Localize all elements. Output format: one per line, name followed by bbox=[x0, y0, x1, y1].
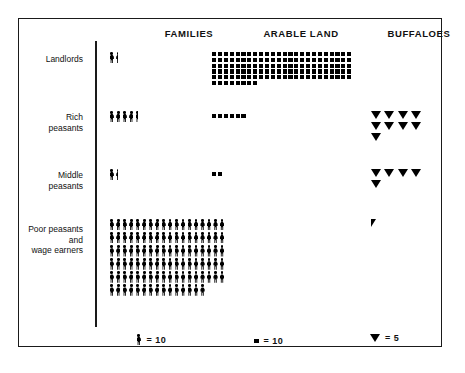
person-icon bbox=[135, 271, 141, 283]
square-icon bbox=[253, 75, 257, 79]
square-icon bbox=[224, 81, 228, 85]
person-icon bbox=[161, 284, 167, 296]
column-header-arable-land: ARABLE LAND bbox=[263, 28, 338, 39]
person-icon bbox=[128, 111, 134, 123]
square-icon bbox=[271, 58, 275, 62]
pictogram-buffaloes-middle-peasants bbox=[371, 169, 437, 191]
triangle-icon bbox=[411, 122, 421, 130]
square-icon bbox=[294, 52, 298, 56]
person-icon bbox=[219, 245, 225, 257]
square-icon bbox=[318, 58, 322, 62]
triangle-icon bbox=[398, 169, 408, 177]
person-icon bbox=[200, 284, 206, 296]
person-icon bbox=[206, 258, 212, 270]
person-icon bbox=[122, 111, 128, 123]
person-icon bbox=[115, 284, 121, 296]
square-icon bbox=[224, 52, 228, 56]
person-icon bbox=[200, 232, 206, 244]
pictogram-buffaloes-rich-peasants bbox=[371, 111, 437, 144]
square-icon bbox=[259, 52, 263, 56]
square-icon bbox=[335, 58, 339, 62]
row-label-poor-peasants: Poor peasants and wage earners bbox=[0, 224, 83, 256]
person-icon bbox=[109, 271, 115, 283]
person-icon bbox=[161, 219, 167, 231]
person-icon bbox=[109, 111, 115, 123]
person-icon bbox=[122, 271, 128, 283]
triangle-icon bbox=[371, 180, 381, 188]
person-icon bbox=[193, 258, 199, 270]
person-icon bbox=[115, 169, 118, 181]
square-icon bbox=[271, 75, 275, 79]
person-icon bbox=[115, 219, 121, 231]
pictogram-arable-rich-peasants bbox=[212, 114, 355, 120]
person-icon bbox=[193, 232, 199, 244]
person-icon bbox=[180, 258, 186, 270]
person-icon bbox=[141, 284, 147, 296]
legend-families: = 10 bbox=[136, 334, 166, 346]
person-icon bbox=[122, 232, 128, 244]
square-icon bbox=[300, 75, 304, 79]
square-icon bbox=[277, 64, 281, 68]
triangle-icon bbox=[371, 111, 381, 119]
square-icon bbox=[241, 64, 245, 68]
square-icon bbox=[224, 58, 228, 62]
person-icon bbox=[213, 245, 219, 257]
person-icon bbox=[109, 169, 115, 181]
square-icon bbox=[247, 58, 251, 62]
person-icon bbox=[206, 245, 212, 257]
square-icon bbox=[218, 75, 222, 79]
person-icon bbox=[128, 219, 134, 231]
person-icon bbox=[180, 271, 186, 283]
person-icon bbox=[219, 271, 225, 283]
person-icon bbox=[128, 258, 134, 270]
label-divider bbox=[95, 41, 97, 327]
square-icon bbox=[324, 64, 328, 68]
person-icon bbox=[187, 258, 193, 270]
triangle-icon bbox=[371, 219, 376, 227]
square-icon bbox=[253, 52, 257, 56]
square-icon bbox=[324, 58, 328, 62]
triangle-icon bbox=[411, 169, 421, 177]
square-icon bbox=[247, 64, 251, 68]
square-icon bbox=[247, 81, 251, 85]
square-icon bbox=[212, 172, 216, 176]
column-header-families: FAMILIES bbox=[165, 28, 214, 39]
person-icon bbox=[128, 232, 134, 244]
square-icon bbox=[254, 339, 259, 344]
person-icon bbox=[161, 258, 167, 270]
pictogram-families-middle-peasants bbox=[109, 169, 205, 182]
square-icon bbox=[294, 75, 298, 79]
square-icon bbox=[218, 114, 222, 118]
square-icon bbox=[265, 69, 269, 73]
square-icon bbox=[271, 69, 275, 73]
person-icon bbox=[109, 258, 115, 270]
square-icon bbox=[218, 172, 222, 176]
legend-arable-land: = 10 bbox=[254, 336, 283, 346]
square-icon bbox=[306, 52, 310, 56]
person-icon bbox=[154, 245, 160, 257]
person-icon bbox=[141, 219, 147, 231]
person-icon bbox=[135, 245, 141, 257]
square-icon bbox=[277, 69, 281, 73]
person-icon bbox=[187, 271, 193, 283]
square-icon bbox=[341, 64, 345, 68]
square-icon bbox=[236, 114, 240, 118]
square-icon bbox=[283, 52, 287, 56]
square-icon bbox=[265, 58, 269, 62]
square-icon bbox=[241, 69, 245, 73]
person-icon bbox=[128, 284, 134, 296]
person-icon bbox=[148, 245, 154, 257]
square-icon bbox=[335, 75, 339, 79]
square-icon bbox=[330, 75, 334, 79]
person-icon bbox=[122, 245, 128, 257]
square-icon bbox=[283, 75, 287, 79]
square-icon bbox=[230, 69, 234, 73]
person-icon bbox=[174, 258, 180, 270]
square-icon bbox=[218, 81, 222, 85]
square-icon bbox=[341, 52, 345, 56]
person-icon bbox=[180, 284, 186, 296]
square-icon bbox=[300, 69, 304, 73]
triangle-icon bbox=[398, 122, 408, 130]
square-icon bbox=[294, 64, 298, 68]
person-icon bbox=[115, 52, 118, 64]
